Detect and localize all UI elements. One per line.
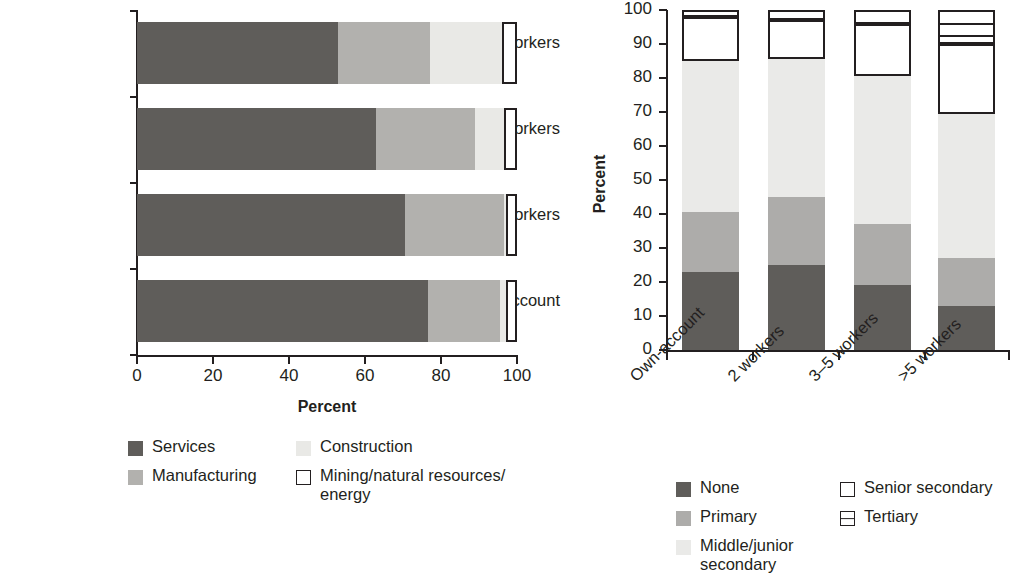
right-chart-y-tick-label-10: 10: [612, 305, 652, 325]
right-chart-y-tick: [659, 111, 667, 113]
right-chart-tertiary-hatch-line: [940, 23, 993, 25]
legend-swatch-construction-icon: [296, 441, 311, 456]
right-chart-y-tick: [659, 9, 667, 11]
left-chart-bar-3-5-workers: [137, 108, 517, 170]
right-chart-bar-gt5-workers: [938, 10, 995, 350]
right-chart-segment-middle-junior-secondary: [682, 61, 739, 212]
right-chart-y-tick: [659, 179, 667, 181]
right-chart-x-tick: [1008, 352, 1010, 360]
left-chart-y-tick: [130, 182, 137, 184]
right-chart-segment-primary: [938, 258, 995, 306]
right-chart-segment-middle-junior-secondary: [854, 76, 911, 224]
left-chart-segment-mining-natural-resources-energy: [506, 280, 517, 342]
left-chart-x-tick-label-0: 0: [107, 366, 167, 386]
left-chart-segment-services: [137, 194, 405, 256]
right-chart-y-tick-label-40: 40: [612, 203, 652, 223]
legend-swatch-senior-secondary-icon: [840, 482, 855, 497]
right-chart-y-tick-label-80: 80: [612, 67, 652, 87]
left-chart-segment-manufacturing: [428, 280, 500, 342]
right-chart-y-tick: [659, 43, 667, 45]
right-chart-segment-senior-secondary: [938, 44, 995, 114]
left-chart-y-tick: [130, 354, 137, 356]
right-chart-y-tick: [659, 247, 667, 249]
left-chart-x-tick-label-40: 40: [259, 366, 319, 386]
legend-label-tertiary: Tertiary: [864, 507, 918, 526]
left-chart-segment-services: [137, 108, 376, 170]
right-chart-y-tick-label-100: 100: [612, 0, 652, 19]
right-chart-y-tick: [659, 145, 667, 147]
left-chart-segment-mining-natural-resources-energy: [506, 194, 517, 256]
left-chart-segment-services: [137, 280, 428, 342]
legend-label-construction: Construction: [320, 437, 413, 456]
right-chart-segment-tertiary: [682, 10, 739, 17]
legend-item-senior-secondary: Senior secondary: [840, 478, 992, 497]
right-chart-y-tick-label-60: 60: [612, 135, 652, 155]
legend-swatch-middle-junior-secondary-icon: [676, 540, 691, 555]
left-chart-bar-own-account: [137, 280, 517, 342]
right-chart-segment-senior-secondary: [768, 20, 825, 59]
left-chart-segment-manufacturing: [405, 194, 504, 256]
left-chart-segment-mining-natural-resources-energy: [504, 108, 517, 170]
left-chart-panel: >5 workers 3–5 workers 2 workers Own-acc…: [0, 0, 560, 586]
legend-label-manufacturing: Manufacturing: [152, 466, 257, 485]
legend-item-mining: Mining/natural resources/ energy: [296, 466, 546, 505]
left-chart-segment-construction: [430, 22, 502, 84]
right-chart-segment-tertiary: [768, 10, 825, 20]
left-chart-x-tick: [288, 357, 290, 364]
legend-swatch-primary-icon: [676, 511, 691, 526]
left-chart-segment-manufacturing: [376, 108, 475, 170]
right-chart-segment-senior-secondary: [854, 24, 911, 77]
left-chart-y-tick: [130, 10, 137, 12]
right-chart-y-tick: [659, 77, 667, 79]
right-chart-bar-3-5-workers: [854, 10, 911, 350]
legend-label-middle-junior-secondary: Middle/junior secondary: [700, 536, 794, 575]
legend-swatch-mining-icon: [296, 470, 311, 485]
left-chart-x-tick: [440, 357, 442, 364]
right-chart-segment-primary: [854, 224, 911, 285]
left-chart-segment-services: [137, 22, 338, 84]
legend-label-primary: Primary: [700, 507, 757, 526]
legend-item-construction: Construction: [296, 437, 413, 456]
right-chart-segment-tertiary: [938, 10, 995, 44]
legend-item-primary: Primary: [676, 507, 757, 526]
right-chart-segment-middle-junior-secondary: [938, 114, 995, 259]
legend-swatch-manufacturing-icon: [128, 470, 143, 485]
legend-item-none: None: [676, 478, 739, 497]
right-chart-segment-tertiary: [854, 10, 911, 24]
left-chart-segment-mining-natural-resources-energy: [502, 22, 517, 84]
right-chart-y-tick-label-50: 50: [612, 169, 652, 189]
right-chart-bar-2-workers: [768, 10, 825, 350]
left-chart-x-tick-label-100: 100: [487, 366, 547, 386]
left-chart-bar-2-workers: [137, 194, 517, 256]
left-chart-bar-gt5-workers: [137, 22, 517, 84]
legend-label-mining-line2: energy: [320, 485, 370, 503]
right-chart-segment-primary: [682, 212, 739, 272]
right-chart-y-tick-label-70: 70: [612, 101, 652, 121]
legend-label-senior-secondary: Senior secondary: [864, 478, 992, 497]
left-chart-x-tick-label-20: 20: [183, 366, 243, 386]
legend-label-mining-line1: Mining/natural resources/: [320, 466, 505, 484]
left-chart-x-tick-label-80: 80: [411, 366, 471, 386]
left-chart-segment-manufacturing: [338, 22, 429, 84]
right-chart-tertiary-hatch-line: [940, 35, 993, 37]
right-chart-y-tick-label-20: 20: [612, 271, 652, 291]
left-chart-x-axis-title: Percent: [137, 398, 517, 416]
right-chart-segment-primary: [768, 197, 825, 265]
left-chart-x-tick: [516, 357, 518, 364]
left-chart-x-tick: [136, 357, 138, 364]
left-chart-y-tick: [130, 96, 137, 98]
legend-label-middle-line1: Middle/junior: [700, 536, 794, 554]
right-chart-segment-middle-junior-secondary: [768, 59, 825, 197]
right-chart-y-tick: [659, 315, 667, 317]
left-chart-plot-area: [137, 10, 517, 355]
left-chart-x-tick: [212, 357, 214, 364]
right-chart-y-tick-label-30: 30: [612, 237, 652, 257]
right-chart-plot-area: [668, 10, 1008, 350]
legend-item-middle-junior-secondary: Middle/junior secondary: [676, 536, 794, 575]
left-chart-x-tick: [364, 357, 366, 364]
left-chart-x-tick-label-60: 60: [335, 366, 395, 386]
right-chart-segment-senior-secondary: [682, 17, 739, 61]
right-chart-bar-own-account: [682, 10, 739, 350]
legend-swatch-tertiary-icon: [840, 511, 855, 526]
legend-swatch-none-icon: [676, 482, 691, 497]
